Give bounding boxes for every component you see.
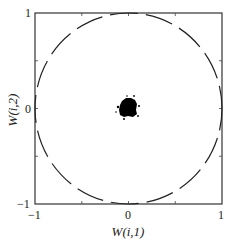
- y-tick-label-1: 1: [25, 6, 31, 20]
- x-tick-label-1: 1: [218, 208, 224, 222]
- y-tick-label-0: 0: [25, 102, 31, 116]
- weight-cluster: [115, 95, 140, 120]
- y-axis-label: W(i,2): [5, 94, 20, 127]
- x-tick-label-0: 0: [125, 208, 131, 222]
- x-tick-label-neg1: −1: [28, 208, 41, 222]
- y-tick-label-neg1: −1: [17, 197, 30, 211]
- chart-canvas: −1 0 1 1 0 −1 W(i,1) W(i,2): [0, 0, 230, 242]
- x-axis-label: W(i,1): [112, 224, 145, 239]
